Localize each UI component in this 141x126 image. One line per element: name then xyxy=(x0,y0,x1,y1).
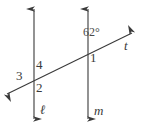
angle-label-1: 1 xyxy=(90,51,97,64)
angle-measure-62: 62° xyxy=(83,26,100,38)
line-label-t: t xyxy=(124,39,128,52)
angle-label-4: 4 xyxy=(36,58,43,71)
angle-label-2: 2 xyxy=(36,81,43,94)
geometry-figure-canvas xyxy=(0,0,141,126)
line-label-m: m xyxy=(94,104,103,117)
geometry-diagram: 3 4 2 1 62° ℓ m t xyxy=(0,0,141,126)
angle-label-3: 3 xyxy=(16,69,23,82)
transversal-line-t xyxy=(7,33,132,94)
line-label-l: ℓ xyxy=(40,103,45,116)
